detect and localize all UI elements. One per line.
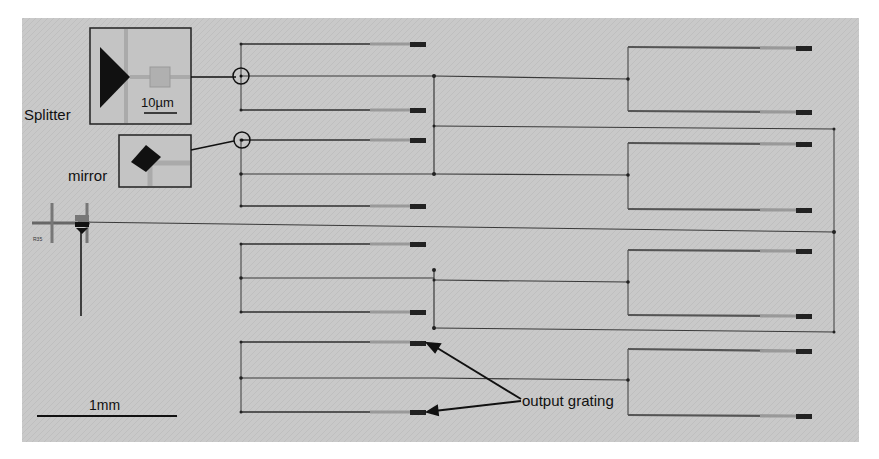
output-grating	[410, 310, 426, 315]
output-grating	[410, 204, 426, 209]
output-grating	[410, 410, 426, 415]
output-grating	[410, 242, 426, 247]
output-grating	[410, 42, 426, 47]
main-scale-label: 1mm	[89, 398, 120, 412]
output-grating	[796, 208, 812, 213]
output-grating	[796, 110, 812, 115]
output-grating	[796, 314, 812, 319]
output-grating	[796, 349, 812, 354]
output-grating	[796, 142, 812, 147]
splitter-label: Splitter	[24, 107, 71, 122]
mirror-inset	[119, 135, 191, 187]
output-grating	[796, 249, 812, 254]
output-grating	[796, 46, 812, 51]
inset-scale-label: 10µm	[141, 96, 174, 109]
mirror-label: mirror	[68, 168, 107, 183]
output-grating-label: output grating	[522, 393, 614, 408]
photonic-circuit-layout	[0, 0, 879, 459]
output-grating	[410, 341, 426, 346]
output-grating	[410, 108, 426, 113]
output-grating	[796, 414, 812, 419]
output-grating	[410, 138, 426, 143]
input-tag-label: R35	[33, 237, 42, 242]
